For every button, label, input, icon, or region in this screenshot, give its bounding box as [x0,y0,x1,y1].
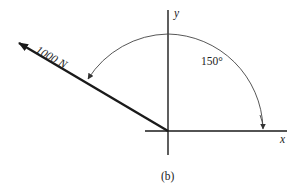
angle-arc-start-arrow [260,115,263,129]
y-axis-label: y [173,7,180,20]
figure-caption: (b) [161,170,175,183]
force-label: 1000 N [34,43,70,71]
angle-arc [88,34,263,128]
angle-label: 150° [201,55,223,67]
x-axis-label: x [279,133,286,145]
force-diagram: 1000 N 150° y x (b) [0,0,303,194]
